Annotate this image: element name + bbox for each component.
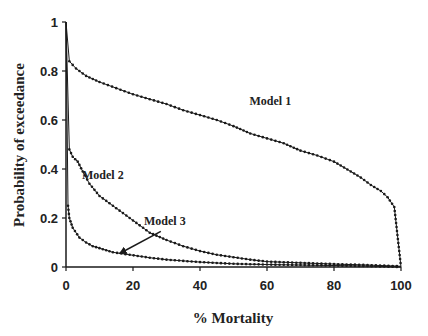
data-point — [370, 184, 373, 187]
data-point — [186, 246, 189, 249]
data-point — [199, 261, 202, 264]
data-point — [236, 263, 239, 266]
data-point — [329, 264, 332, 267]
data-point — [354, 265, 357, 268]
data-point — [241, 257, 244, 260]
data-point — [249, 263, 252, 266]
data-point — [95, 79, 98, 82]
data-point — [207, 261, 210, 264]
series-model-2 — [66, 22, 401, 267]
data-point — [81, 72, 84, 75]
data-point — [169, 104, 172, 107]
data-point — [391, 265, 394, 268]
data-point — [397, 246, 400, 249]
data-point — [153, 99, 156, 102]
data-point — [346, 168, 349, 171]
data-point — [262, 260, 265, 263]
data-point — [376, 188, 379, 191]
data-point — [123, 90, 126, 93]
data-point — [98, 195, 101, 198]
x-axis-title: % Mortality — [193, 310, 274, 326]
series-line — [66, 22, 401, 267]
data-point — [203, 261, 206, 264]
data-point — [182, 260, 185, 263]
data-point — [399, 258, 402, 261]
data-point — [157, 257, 160, 260]
data-point — [174, 106, 177, 109]
data-point — [228, 262, 231, 265]
data-point — [78, 236, 81, 239]
data-point — [76, 233, 79, 236]
data-point — [299, 264, 302, 267]
data-point — [190, 247, 193, 250]
data-point — [220, 254, 223, 257]
data-point — [116, 252, 119, 255]
data-point — [257, 259, 260, 262]
data-point — [341, 264, 344, 267]
data-point — [124, 253, 127, 256]
data-point — [363, 179, 366, 182]
data-point — [333, 264, 336, 267]
data-point — [115, 207, 118, 210]
data-point — [253, 133, 256, 136]
data-point — [119, 88, 122, 91]
x-tick-label: 20 — [126, 278, 140, 293]
data-point — [88, 182, 91, 185]
data-point — [132, 254, 135, 257]
data-point — [349, 264, 352, 267]
data-point — [195, 260, 198, 263]
data-point — [293, 146, 296, 149]
series-group — [66, 22, 402, 268]
data-point — [165, 103, 168, 106]
data-point — [136, 255, 139, 258]
data-point — [132, 219, 135, 222]
data-point — [148, 256, 151, 259]
data-point — [157, 100, 160, 103]
data-point — [207, 252, 210, 255]
data-point — [68, 217, 71, 220]
data-point — [128, 217, 131, 220]
data-point — [224, 262, 227, 265]
data-point — [224, 122, 227, 125]
data-point — [148, 98, 151, 101]
data-point — [316, 264, 319, 267]
data-point — [274, 261, 277, 264]
data-point — [211, 117, 214, 120]
data-point — [262, 263, 265, 266]
data-point — [329, 159, 332, 162]
data-point — [291, 264, 294, 267]
data-point — [278, 141, 281, 144]
data-point — [186, 260, 189, 263]
data-point — [278, 261, 281, 264]
data-point — [68, 148, 71, 151]
data-point — [105, 249, 108, 252]
x-tick-label: 0 — [62, 278, 69, 293]
data-point — [324, 264, 327, 267]
y-axis-title: Probability of exceedance — [11, 63, 27, 227]
data-point — [186, 110, 189, 113]
data-point — [241, 263, 244, 266]
data-point — [291, 261, 294, 264]
data-point — [360, 176, 363, 179]
data-point — [75, 67, 78, 70]
data-point — [107, 84, 110, 87]
data-point — [203, 115, 206, 118]
data-point — [70, 152, 73, 155]
data-point — [190, 260, 193, 263]
data-point — [232, 256, 235, 259]
data-point — [102, 197, 105, 200]
data-point — [70, 223, 73, 226]
data-point — [393, 210, 396, 213]
data-point — [303, 151, 306, 154]
data-point — [245, 258, 248, 261]
data-point — [105, 200, 108, 203]
data-point — [128, 91, 131, 94]
data-point — [383, 193, 386, 196]
data-point — [169, 259, 172, 262]
y-tick-label: 0.6 — [40, 113, 58, 128]
annotation-model-1: Model 1 — [250, 94, 292, 108]
data-point — [239, 128, 242, 131]
data-point — [387, 265, 390, 268]
data-point — [395, 222, 398, 225]
data-point — [396, 234, 399, 237]
